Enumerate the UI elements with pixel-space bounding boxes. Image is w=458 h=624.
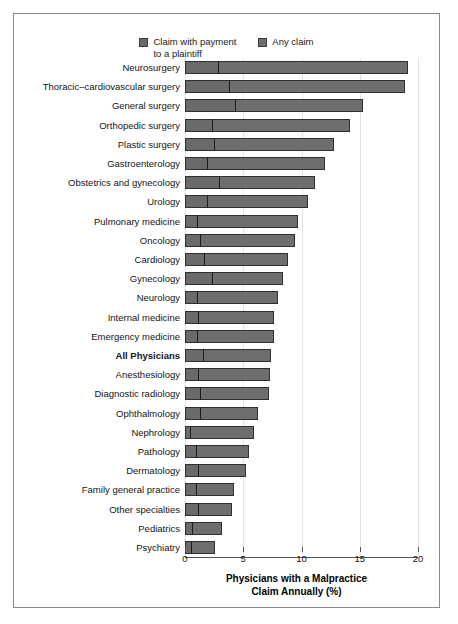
category-label: General surgery: [112, 96, 180, 115]
x-tick: [360, 547, 361, 552]
bar-row: Emergency medicine: [185, 327, 418, 346]
bar-claim-with-payment: [185, 483, 197, 496]
legend-swatch-any-claim: [258, 38, 267, 47]
category-label: All Physicians: [116, 346, 180, 365]
bar-claim-with-payment: [185, 272, 213, 285]
chart-legend: Claim with payment to a plaintiff Any cl…: [14, 36, 439, 59]
bar-claim-with-payment: [185, 215, 198, 228]
bar-claim-with-payment: [185, 445, 197, 458]
x-tick-label: 10: [296, 553, 307, 564]
x-tick: [185, 547, 186, 552]
x-axis-title: Physicians with a Malpractice Claim Annu…: [14, 572, 439, 598]
bar-row: Plastic surgery: [185, 135, 418, 154]
bar-row: Anesthesiology: [185, 365, 418, 384]
category-label: Neurology: [137, 288, 180, 307]
category-label: Plastic surgery: [118, 135, 180, 154]
bar-row: Thoracic–cardiovascular surgery: [185, 77, 418, 96]
bar-claim-with-payment: [185, 387, 201, 400]
category-label: Diagnostic radiology: [94, 384, 180, 403]
bar-claim-with-payment: [185, 368, 199, 381]
category-label: Psychiatry: [136, 538, 180, 557]
bar-row: Cardiology: [185, 250, 418, 269]
bar-claim-with-payment: [185, 138, 215, 151]
legend-entry-claim-with-payment: Claim with payment to a plaintiff: [139, 36, 236, 59]
figure-frame: Claim with payment to a plaintiff Any cl…: [13, 13, 440, 608]
category-label: Pathology: [138, 442, 180, 461]
bar-row: All Physicians: [185, 346, 418, 365]
x-axis: 05101520: [185, 547, 418, 567]
category-label: Emergency medicine: [91, 327, 180, 346]
bar-any-claim: [185, 291, 278, 304]
bar-claim-with-payment: [185, 234, 201, 247]
bar-row: Orthopedic surgery: [185, 116, 418, 135]
legend-label-claim-with-payment: Claim with payment to a plaintiff: [153, 36, 236, 59]
bar-row: Nephrology: [185, 423, 418, 442]
bar-claim-with-payment: [185, 253, 205, 266]
bar-row: Urology: [185, 192, 418, 211]
bar-row: Obstetrics and gynecology: [185, 173, 418, 192]
bar-row: Neurosurgery: [185, 58, 418, 77]
category-label: Pulmonary medicine: [94, 212, 180, 231]
category-label: Urology: [147, 192, 180, 211]
category-label: Anesthesiology: [116, 365, 180, 384]
legend-entry-any-claim: Any claim: [258, 36, 313, 48]
x-tick: [302, 547, 303, 552]
bar-row: Gynecology: [185, 269, 418, 288]
bar-claim-with-payment: [185, 291, 198, 304]
bar-claim-with-payment: [185, 522, 193, 535]
category-label: Ophthalmology: [116, 404, 180, 423]
x-tick-label: 20: [413, 553, 424, 564]
category-label: Oncology: [140, 231, 180, 250]
bar-row: Internal medicine: [185, 308, 418, 327]
bar-row: General surgery: [185, 96, 418, 115]
category-label: Gynecology: [130, 269, 180, 288]
gridline: [418, 58, 419, 557]
bar-claim-with-payment: [185, 61, 219, 74]
bar-row: Ophthalmology: [185, 404, 418, 423]
x-tick: [418, 547, 419, 552]
category-label: Thoracic–cardiovascular surgery: [43, 77, 180, 96]
x-tick-label: 0: [182, 553, 187, 564]
category-label: Pediatrics: [138, 519, 180, 538]
bar-claim-with-payment: [185, 349, 204, 362]
category-label: Family general practice: [82, 480, 180, 499]
bar-claim-with-payment: [185, 176, 220, 189]
category-label: Internal medicine: [108, 308, 180, 327]
bar-row: Pathology: [185, 442, 418, 461]
category-label: Nephrology: [131, 423, 180, 442]
category-label: Cardiology: [135, 250, 180, 269]
x-tick: [243, 547, 244, 552]
bar-any-claim: [185, 215, 298, 228]
bar-row: Other specialties: [185, 500, 418, 519]
bar-row: Diagnostic radiology: [185, 384, 418, 403]
bar-claim-with-payment: [185, 157, 208, 170]
bar-any-claim: [185, 330, 274, 343]
bar-row: Neurology: [185, 288, 418, 307]
bar-row: Oncology: [185, 231, 418, 250]
category-label: Obstetrics and gynecology: [68, 173, 180, 192]
x-tick-label: 5: [241, 553, 246, 564]
bar-claim-with-payment: [185, 464, 199, 477]
bar-claim-with-payment: [185, 330, 198, 343]
category-label: Dermatology: [126, 461, 180, 480]
bar-claim-with-payment: [185, 99, 236, 112]
bar-any-claim: [185, 426, 254, 439]
bar-row: Pediatrics: [185, 519, 418, 538]
bar-row: Dermatology: [185, 461, 418, 480]
bar-claim-with-payment: [185, 407, 201, 420]
plot-area: NeurosurgeryThoracic–cardiovascular surg…: [185, 58, 418, 557]
category-label: Orthopedic surgery: [99, 116, 180, 135]
bar-any-claim: [185, 234, 295, 247]
bar-claim-with-payment: [185, 503, 199, 516]
bar-claim-with-payment: [185, 119, 213, 132]
legend-label-any-claim: Any claim: [272, 36, 313, 48]
bar-claim-with-payment: [185, 426, 191, 439]
category-label: Other specialties: [109, 500, 180, 519]
bar-row: Family general practice: [185, 480, 418, 499]
bar-row: Pulmonary medicine: [185, 212, 418, 231]
x-tick-label: 15: [354, 553, 365, 564]
category-label: Neurosurgery: [122, 58, 180, 77]
category-label: Gastroenterology: [107, 154, 180, 173]
bar-claim-with-payment: [185, 195, 208, 208]
bar-claim-with-payment: [185, 311, 199, 324]
